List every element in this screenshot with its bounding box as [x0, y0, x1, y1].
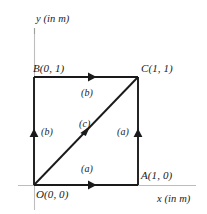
path-label-diagonal-c: (c) [79, 119, 90, 129]
vertex-label-O: O(0, 0) [36, 189, 68, 200]
path-label-top-b: (b) [81, 88, 93, 98]
x-axis-label: x (in m) [157, 194, 190, 205]
vertex-label-A: A(1, 0) [141, 170, 172, 181]
arrowhead-right-up [134, 129, 143, 138]
physics-square-path-figure: B(0, 1) C(1, 1) A(1, 0) O(0, 0) y (in m)… [0, 0, 207, 214]
path-label-bottom-a: (a) [81, 164, 93, 174]
figure-canvas [0, 0, 207, 214]
arrowhead-left-up [30, 129, 39, 138]
path-label-right-a: (a) [117, 127, 129, 137]
arrowhead-bottom-right [88, 181, 97, 190]
vertex-label-C: C(1, 1) [141, 63, 173, 74]
arrowhead-top-right [88, 73, 97, 82]
y-axis-label: y (in m) [36, 14, 69, 25]
vertex-label-B: B(0, 1) [33, 63, 64, 74]
path-label-left-b: (b) [41, 127, 53, 137]
